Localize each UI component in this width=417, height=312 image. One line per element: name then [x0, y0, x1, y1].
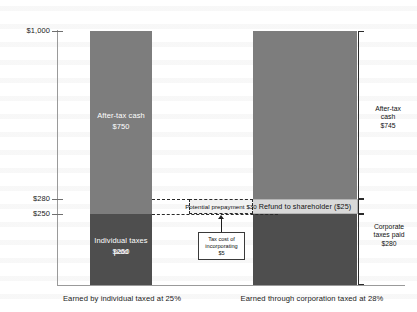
- tax-cost-of-incorporating-box[interactable]: Tax cost of incorporating $5: [198, 232, 245, 260]
- y-tick-mark-250: [52, 214, 63, 215]
- bar2-segment-after-tax-cash[interactable]: [253, 31, 357, 199]
- category-label-left: Earned by individual taxed at 25%: [46, 294, 198, 303]
- bar1-after-tax-cash-label-line2: $750: [90, 121, 152, 132]
- corporate-taxes-bracket-label: Corporate taxes paid $280: [364, 223, 414, 248]
- tax-cost-arrow-head: [218, 215, 224, 219]
- x-axis-line: [57, 285, 405, 286]
- after-tax-cash-bracket-label: After-tax cash $745: [364, 105, 412, 130]
- after-tax-cash-bracket-line1: After-tax: [364, 105, 412, 113]
- y-axis-line: [57, 30, 58, 285]
- corporate-taxes-bracket-line3: $280: [364, 240, 414, 248]
- stacked-bar-chart: $1,000 $280 $250 After-tax cash $750 Ind…: [0, 0, 417, 312]
- prepayment-bottom-connector: [152, 214, 278, 215]
- y-tick-mark-1000: [52, 31, 63, 32]
- bar1-individual-taxes-label-line2: $250: [90, 246, 152, 257]
- corporate-taxes-bracket-line1: Corporate: [364, 223, 414, 231]
- category-label-right: Earned through corporation taxed at 28%: [222, 294, 402, 303]
- tax-cost-line1: Tax cost of: [208, 236, 235, 243]
- y-tick-label-1000: $1,000: [6, 26, 50, 35]
- bar2-segment-corporate-taxes-paid[interactable]: [253, 214, 357, 285]
- refund-to-shareholder-label: Refund to shareholder ($25): [259, 202, 352, 211]
- refund-to-shareholder-band[interactable]: Refund to shareholder ($25): [252, 199, 358, 214]
- refund-bracket: [358, 199, 364, 214]
- bar-earned-by-individual[interactable]: After-tax cash $750 Individual taxes pai…: [90, 31, 152, 285]
- y-tick-label-250: $250: [6, 209, 50, 218]
- tax-cost-arrow-stem: [221, 219, 222, 233]
- y-tick-mark-280: [52, 199, 63, 200]
- potential-prepayment-box[interactable]: Potential prepayment $30: [189, 199, 253, 214]
- tax-cost-line3: $5: [218, 250, 224, 257]
- bar-earned-through-corporation[interactable]: [253, 31, 357, 285]
- tax-cost-line2: incorporating: [205, 243, 237, 250]
- bar1-after-tax-cash-label-line1: After-tax cash: [90, 110, 152, 121]
- corporate-taxes-bracket-line2: taxes paid: [364, 231, 414, 239]
- y-tick-label-280: $280: [6, 194, 50, 203]
- after-tax-cash-bracket-line3: $745: [364, 122, 412, 130]
- prepayment-top-connector: [152, 199, 190, 200]
- potential-prepayment-label: Potential prepayment $30: [185, 203, 257, 210]
- after-tax-cash-bracket-line2: cash: [364, 113, 412, 121]
